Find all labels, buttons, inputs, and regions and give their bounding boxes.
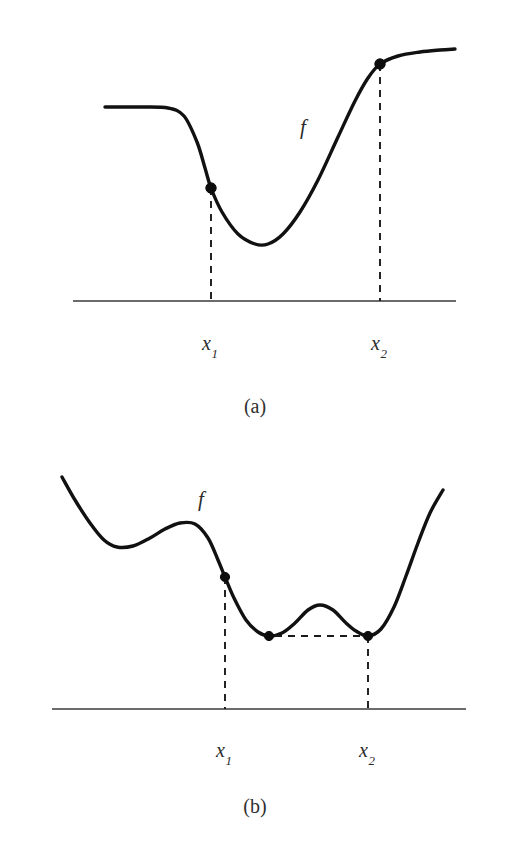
panel-b-x2-subscript: 2: [368, 753, 375, 768]
panel-b-x2-base: x: [359, 739, 368, 761]
panel-b-x1-label: x1: [216, 740, 231, 764]
panel-b-dashed-leaders: [225, 577, 368, 709]
panel-b-x2-label: x2: [359, 740, 374, 764]
panel-a-x2-base: x: [371, 332, 380, 354]
panel-b-function-curve: [62, 477, 443, 636]
panel-b-plot: [0, 430, 510, 858]
panel-a-function-curve: [105, 49, 455, 245]
panel-a-x1-subscript: 1: [211, 346, 218, 361]
panel-a-plot: [0, 0, 510, 430]
panel-b: f x1 x2 (b): [0, 430, 510, 858]
point-marker-x1: [220, 572, 229, 581]
panel-a-x1-label: x1: [202, 333, 217, 357]
panel-b-x1-base: x: [216, 739, 225, 761]
panel-a-x2-label: x2: [371, 333, 386, 357]
figure-root: f x1 x2 (a) f x1 x2 (b): [0, 0, 510, 858]
point-marker-x2: [363, 631, 372, 640]
panel-a-function-label: f: [300, 117, 306, 138]
panel-a-point-markers: [206, 59, 385, 193]
panel-a: f x1 x2 (a): [0, 0, 510, 430]
panel-b-x1-subscript: 1: [225, 753, 232, 768]
panel-a-x1-base: x: [202, 332, 211, 354]
panel-a-x2-subscript: 2: [380, 346, 387, 361]
panel-a-caption: (a): [0, 396, 510, 416]
point-marker-x1: [206, 183, 216, 193]
panel-b-caption: (b): [0, 796, 510, 816]
panel-b-function-label: f: [198, 489, 204, 510]
panel-b-point-markers: [220, 572, 372, 640]
point-marker-x2: [375, 59, 385, 69]
point-marker-min-left: [264, 631, 273, 640]
